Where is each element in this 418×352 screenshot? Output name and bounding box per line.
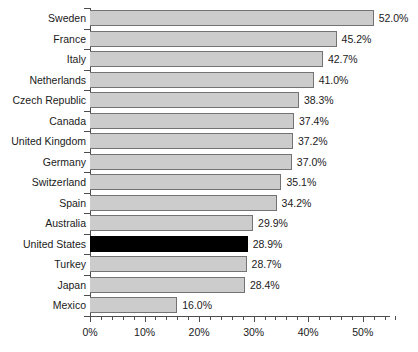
bar-container [90,31,337,47]
value-axis-line [90,316,390,317]
x-tick-minor [232,316,233,320]
bar-value-label: 37.0% [297,152,327,172]
bar-row: Japan28.4% [0,275,418,295]
bar-row: Switzerland35.1% [0,172,418,192]
bar-container [90,195,277,211]
bar-container [90,277,245,293]
bar-container [90,51,323,67]
x-tick-minor [374,316,375,320]
x-tick-minor [395,316,396,320]
x-tick-minor [112,316,113,320]
bar-row: Mexico16.0% [0,295,418,315]
x-tick-label: 40% [298,326,319,338]
bar-row: Spain34.2% [0,193,418,213]
bar [90,92,299,108]
bar-container [90,92,299,108]
x-tick-minor [297,316,298,320]
bar-row: Turkey28.7% [0,254,418,274]
category-label: Germany [43,152,86,172]
category-tick [84,172,90,173]
x-tick-minor [188,316,189,320]
bar-container [90,174,281,190]
bar-chart: 0%10%20%30%40%50% Sweden52.0%France45.2%… [0,0,418,352]
category-label: Australia [45,213,86,233]
bar-value-label: 52.0% [379,8,409,28]
bar-container [90,154,292,170]
bar-value-label: 35.1% [286,172,316,192]
category-label: Netherlands [29,70,86,90]
category-label: United Kingdom [11,131,86,151]
bar-container [90,113,294,129]
category-label: Spain [59,193,86,213]
x-tick-major [90,316,91,322]
bar-row: United States28.9% [0,234,418,254]
bar-highlighted [90,236,248,252]
bar [90,72,314,88]
bar [90,277,245,293]
x-tick-minor [341,316,342,320]
bar-value-label: 29.9% [258,213,288,233]
bar-container [90,215,253,231]
bar-value-label: 45.2% [342,29,372,49]
category-label: Czech Republic [12,90,86,110]
x-tick-minor [319,316,320,320]
category-tick [84,90,90,91]
bar-value-label: 37.2% [298,131,328,151]
bar-row: United Kingdom37.2% [0,131,418,151]
bar [90,195,277,211]
x-tick-major [145,316,146,322]
category-label: Switzerland [32,172,86,192]
category-label: France [53,29,86,49]
category-tick [84,193,90,194]
x-tick-major [199,316,200,322]
category-label: Turkey [54,254,86,274]
bar [90,297,177,313]
bar-value-label: 41.0% [319,70,349,90]
category-label: Mexico [53,295,86,315]
category-tick [84,8,90,9]
x-tick-minor [275,316,276,320]
x-tick-minor [155,316,156,320]
x-tick-major [308,316,309,322]
category-tick [84,152,90,153]
bar-container [90,133,293,149]
bar [90,10,374,26]
x-tick-minor [243,316,244,320]
bar [90,174,281,190]
x-tick-minor [101,316,102,320]
bar-row: Czech Republic38.3% [0,90,418,110]
bar-container [90,10,374,26]
x-tick-minor [123,316,124,320]
bar-value-label: 16.0% [182,295,212,315]
bar-value-label: 28.4% [250,275,280,295]
bar-row: Sweden52.0% [0,8,418,28]
bar [90,256,247,272]
category-label: Canada [49,111,86,131]
bar-value-label: 37.4% [299,111,329,131]
category-label: United States [23,234,86,254]
category-tick [84,316,90,317]
bar-row: Italy42.7% [0,49,418,69]
category-label: Italy [67,49,86,69]
x-tick-minor [330,316,331,320]
category-tick [84,49,90,50]
bar [90,113,294,129]
x-tick-label: 20% [189,326,210,338]
category-label: Japan [57,275,86,295]
x-tick-minor [385,316,386,320]
category-tick [84,29,90,30]
bar [90,154,292,170]
bar [90,133,293,149]
x-tick-major [254,316,255,322]
bar-value-label: 42.7% [328,49,358,69]
bar-container [90,256,247,272]
x-tick-minor [286,316,287,320]
x-tick-label: 50% [352,326,373,338]
bar [90,51,323,67]
category-tick [84,234,90,235]
bar-row: Australia29.9% [0,213,418,233]
bar-value-label: 38.3% [304,90,334,110]
category-tick [84,131,90,132]
category-tick [84,70,90,71]
category-label: Sweden [48,8,86,28]
